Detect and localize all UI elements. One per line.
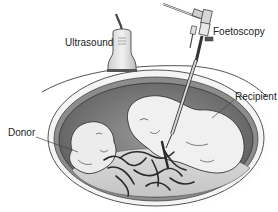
ultrasound-label: Ultrasound bbox=[65, 37, 113, 48]
donor-label: Donor bbox=[8, 127, 35, 138]
foetoscopy-label: Foetoscopy bbox=[213, 26, 265, 37]
recipient-label: Recipient bbox=[235, 91, 277, 102]
diagram-canvas: Ultrasound Foetoscopy Recipient Donor bbox=[0, 0, 278, 212]
